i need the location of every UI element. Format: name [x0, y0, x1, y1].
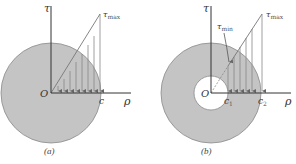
caption-a: (a)	[44, 146, 55, 156]
tau-max-label-a: τmax	[103, 10, 121, 20]
tau-min-label-b: τmin	[217, 22, 233, 32]
tau-axis-label-b: τ	[203, 2, 210, 15]
tau-axis-label-a: τ	[44, 2, 51, 15]
panel-b: τ ρ O c1 c2 τmax τmin (b)	[161, 2, 292, 156]
caption-b: (b)	[201, 146, 212, 156]
tau-max-label-b: τmax	[266, 10, 284, 20]
panel-a: τ ρ O c τmax (a)	[1, 2, 131, 156]
origin-label-b: O	[201, 88, 209, 99]
rho-axis-label-b: ρ	[284, 95, 292, 108]
radius-label-c: c	[99, 96, 104, 106]
torsion-shear-stress-figure: τ ρ O c τmax (a) τ ρ O c1	[0, 0, 296, 164]
outer-radius-label-c2: c2	[258, 96, 267, 107]
origin-label-a: O	[40, 88, 48, 99]
rho-axis-label-a: ρ	[123, 95, 131, 108]
